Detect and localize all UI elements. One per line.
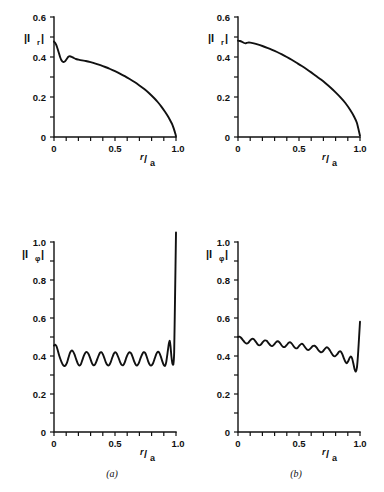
ytick-label: 0.6	[33, 313, 46, 324]
ytick-label: 0.2	[33, 92, 46, 103]
panel-bottom-left: 1.0 0.8 0.6 0.4 0.2 0 0 0.5 1.0 |I φ | r…	[22, 233, 185, 464]
svg-text:r: r	[37, 38, 40, 47]
ytick-label: 0.6	[33, 12, 46, 23]
ylabel-top-left: |I r |	[24, 32, 44, 47]
svg-text:|: |	[41, 32, 44, 44]
ytick-label: 0.4	[217, 52, 231, 63]
xlabel-top-left: r / a	[140, 152, 156, 168]
xtick-label: 1.0	[171, 438, 184, 449]
ylabel-bottom-right: |I φ |	[206, 248, 228, 263]
xtick-label: 0	[51, 143, 56, 154]
xtick-label: 0	[235, 143, 240, 154]
svg-text:|I: |I	[208, 32, 214, 44]
ytick-label: 0.4	[33, 351, 47, 362]
ytick-label: 0	[41, 132, 46, 143]
ytick-label: 0.4	[33, 52, 47, 63]
axes-top-right	[238, 17, 360, 137]
ytick-label: 0	[225, 427, 230, 438]
xtick-label: 0	[235, 438, 240, 449]
ytick-label: 0.8	[33, 275, 46, 286]
ylabel-top-right: |I r |	[208, 32, 228, 47]
axes-bottom-right	[238, 242, 360, 432]
xtick-label: 0.5	[108, 438, 122, 449]
figure-container: 0.6 0.4 0.2 0 0 0.5 1.0 |I r | r / a	[0, 0, 384, 492]
data-curve	[238, 41, 360, 136]
ytick-label: 1.0	[33, 237, 46, 248]
panel-bottom-right: 1.0 0.8 0.6 0.4 0.2 0 0 0.5 1.0 |I φ | r…	[206, 237, 367, 464]
ytick-label: 0.2	[217, 389, 230, 400]
data-curve	[54, 42, 176, 137]
svg-text:|: |	[225, 248, 228, 260]
xtick-label: 1.0	[353, 438, 366, 449]
xtick-label: 0.5	[292, 438, 306, 449]
xtick-label: 1.0	[353, 143, 366, 154]
ytick-label: 0.8	[217, 275, 230, 286]
ylabel-bottom-left: |I φ |	[22, 248, 44, 263]
svg-text:r: r	[221, 38, 224, 47]
data-curve	[54, 233, 176, 366]
svg-text:|: |	[225, 32, 228, 44]
svg-text:/: /	[144, 153, 147, 165]
svg-text:/: /	[326, 448, 329, 460]
axes-top-left	[54, 17, 176, 137]
ytick-label: 0.2	[33, 389, 46, 400]
xtick-label: 1.0	[171, 143, 184, 154]
ytick-label: 1.0	[217, 237, 230, 248]
xlabel-bottom-left: r / a	[140, 447, 156, 463]
svg-text:|I: |I	[24, 32, 30, 44]
svg-text:a: a	[332, 158, 338, 168]
svg-text:|: |	[41, 248, 44, 260]
svg-text:a: a	[332, 453, 338, 463]
svg-text:a: a	[150, 158, 156, 168]
svg-text:a: a	[150, 453, 156, 463]
svg-text:/: /	[326, 153, 329, 165]
ytick-label: 0	[225, 132, 230, 143]
panel-top-left: 0.6 0.4 0.2 0 0 0.5 1.0 |I r | r / a	[24, 12, 185, 169]
svg-text:|I: |I	[206, 248, 212, 260]
xtick-label: 0.5	[292, 143, 306, 154]
xtick-label: 0.5	[108, 143, 122, 154]
ytick-label: 0.6	[217, 313, 230, 324]
ytick-label: 0	[41, 427, 46, 438]
data-curve	[238, 322, 360, 372]
svg-text:|I: |I	[22, 248, 28, 260]
panel-top-right: 0.6 0.4 0.2 0 0 0.5 1.0 |I r | r / a	[208, 12, 367, 169]
caption-panel-a: (a)	[106, 468, 118, 480]
axes-bottom-left	[54, 242, 176, 432]
four-panel-figure: 0.6 0.4 0.2 0 0 0.5 1.0 |I r | r / a	[0, 0, 384, 492]
xtick-label: 0	[51, 438, 56, 449]
ytick-label: 0.4	[217, 351, 231, 362]
ytick-label: 0.2	[217, 92, 230, 103]
xlabel-top-right: r / a	[322, 152, 338, 168]
xlabel-bottom-right: r / a	[322, 447, 338, 463]
svg-text:/: /	[144, 448, 147, 460]
ytick-label: 0.6	[217, 12, 230, 23]
caption-panel-b: (b)	[290, 468, 302, 480]
